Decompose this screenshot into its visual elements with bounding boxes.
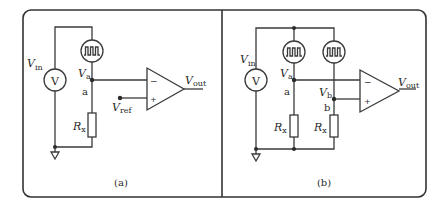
vref-label: Vref xyxy=(112,101,133,115)
vin-label: Vin xyxy=(27,57,43,72)
circuit-figure: V Vin Va a Rx Vref − + Vout xyxy=(0,0,447,211)
bottom-junction-dot xyxy=(292,147,296,151)
ground-icon xyxy=(51,147,59,159)
wire-bottom xyxy=(256,137,334,149)
node-name-label: a xyxy=(82,86,88,97)
wire-bottom xyxy=(55,137,92,147)
caption-a: (a) xyxy=(114,177,128,188)
ground-icon xyxy=(252,149,260,161)
vout-label: Vout xyxy=(185,74,207,88)
resistor-b-label: Rx xyxy=(313,121,327,135)
resistor-a-label: Rx xyxy=(273,121,287,135)
resistor-label: Rx xyxy=(72,120,86,134)
resistor-a-icon xyxy=(290,115,298,137)
node-b-name-label: b xyxy=(324,102,330,113)
opamp-icon: − + xyxy=(360,70,399,112)
opamp-plus: + xyxy=(364,97,371,106)
pulse-sensor-a-icon xyxy=(283,41,305,63)
node-a-name-label: a xyxy=(284,86,290,97)
panel-b: V Vin Va a Vb b Rx Rx xyxy=(240,26,420,188)
vref-terminal-dot xyxy=(118,96,122,100)
source-glyph: V xyxy=(50,75,60,88)
voltage-source-icon: V xyxy=(245,69,267,91)
top-junction-dot xyxy=(292,26,296,30)
voltage-source-icon: V xyxy=(44,69,66,91)
resistor-icon xyxy=(88,113,96,137)
panel-a: V Vin Va a Rx Vref − + Vout xyxy=(27,27,207,188)
opamp-minus: − xyxy=(364,77,372,87)
resistor-b-icon xyxy=(330,115,338,137)
node-b-voltage-label: Vb xyxy=(319,86,332,100)
opamp-icon: − + xyxy=(147,68,184,110)
node-voltage-label: Va xyxy=(78,67,91,81)
pulse-sensor-icon xyxy=(81,40,103,62)
vin-label: Vin xyxy=(240,53,256,68)
vout-label: Vout xyxy=(398,76,420,90)
pulse-sensor-b-icon xyxy=(323,41,345,63)
source-glyph: V xyxy=(251,75,261,88)
node-b-dot xyxy=(332,97,336,101)
opamp-minus: − xyxy=(150,76,158,86)
node-a-voltage-label: Va xyxy=(280,67,293,81)
opamp-plus: + xyxy=(150,95,157,104)
caption-b: (b) xyxy=(317,177,331,188)
